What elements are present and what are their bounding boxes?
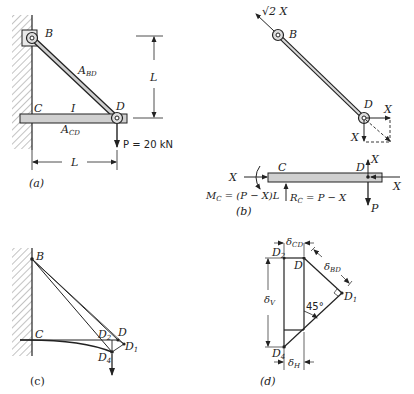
label-angle: 45°	[306, 301, 324, 312]
panel-a: B ABD L C I D ACD P = 20 kN L (a)	[12, 15, 173, 190]
label-b-link: B	[288, 28, 297, 41]
label-delta-h: δH	[288, 357, 301, 370]
label-b: B	[44, 27, 53, 40]
label-c-beam: C	[278, 161, 287, 174]
label-d: D	[115, 100, 125, 113]
caption-d: (d)	[260, 375, 276, 388]
label-d-d: D	[293, 259, 303, 272]
label-delta-v: δV	[264, 294, 276, 307]
label-x-down-d: X	[350, 131, 360, 144]
label-x-right-d: X	[383, 103, 393, 116]
label-d-beam: D	[355, 161, 365, 174]
caption-a: (a)	[29, 177, 44, 190]
label-x-right-beam: X	[392, 180, 402, 193]
label-reaction: RC = P − X	[289, 192, 347, 205]
beam-cd-fbd	[268, 173, 382, 182]
label-delta-bd: δBD	[324, 261, 341, 274]
panel-d: 45° δCD δBD δV δH D2 D D1 D4 (d)	[260, 236, 357, 388]
label-d1-d: D1	[343, 290, 357, 304]
label-d-c: D	[117, 326, 127, 339]
label-moment: MC = (P − X)L	[205, 190, 280, 203]
label-i: I	[70, 102, 76, 115]
panel-c: B C D2 D D1 D4 (c)	[12, 248, 138, 388]
label-p: P	[370, 202, 379, 215]
label-d1-c: D1	[124, 340, 138, 354]
label-c: C	[34, 102, 43, 115]
panel-b: √2 X B D X X X MC = (P − X)L RC = P − X …	[205, 5, 402, 218]
caption-b: (b)	[236, 205, 252, 218]
label-sqrt2x: √2 X	[262, 5, 289, 18]
label-d4-d: D4	[271, 347, 285, 361]
label-c-c: C	[35, 328, 44, 341]
caption-c: (c)	[30, 375, 45, 388]
label-d4-c: D4	[97, 351, 111, 365]
label-d-link: D	[363, 98, 373, 111]
label-d2-d: D2	[271, 246, 286, 260]
label-b-c: B	[35, 250, 44, 263]
label-x-up: X	[370, 153, 380, 166]
label-load: P = 20 kN	[123, 139, 173, 150]
label-l-horizontal: L	[70, 156, 78, 169]
structural-diagram: B ABD L C I D ACD P = 20 kN L (a) √2 X B…	[0, 0, 414, 394]
label-x-left-beam: X	[228, 171, 238, 184]
label-d2-c: D2	[97, 328, 112, 342]
label-a-bd: ABD	[77, 64, 97, 78]
label-delta-cd: δCD	[286, 236, 303, 249]
label-l-vertical: L	[149, 71, 157, 84]
label-a-cd: ACD	[60, 123, 80, 137]
